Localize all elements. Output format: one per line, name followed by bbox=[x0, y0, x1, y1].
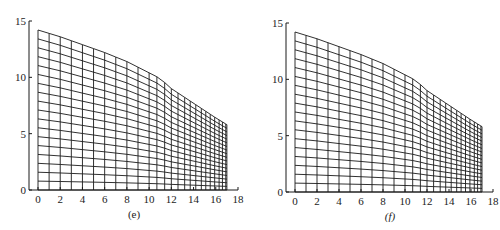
x-tick-label: 10 bbox=[400, 195, 412, 207]
y-tick-label: 5 bbox=[278, 130, 284, 142]
mesh-row-line bbox=[295, 50, 482, 134]
y-tick-label: 10 bbox=[272, 73, 284, 85]
x-tick-label: 8 bbox=[380, 195, 386, 207]
x-tick-label: 16 bbox=[466, 195, 478, 207]
mesh-top-boundary bbox=[295, 32, 482, 127]
mesh-row-line bbox=[295, 112, 482, 159]
x-tick-label: 18 bbox=[488, 195, 500, 207]
mesh-grid bbox=[295, 32, 482, 192]
mesh-row-line bbox=[295, 59, 482, 138]
mesh-row-line bbox=[295, 76, 482, 144]
x-tick-label: 0 bbox=[292, 195, 298, 207]
y-tick-label: 15 bbox=[272, 17, 284, 29]
x-tick-label: 4 bbox=[336, 195, 342, 207]
x-tick-label: 6 bbox=[358, 195, 364, 207]
mesh-row-line bbox=[295, 148, 482, 174]
panel-f: 051015024681012141618(f) bbox=[0, 0, 250, 230]
mesh-row-line bbox=[295, 183, 482, 188]
x-tick-label: 12 bbox=[422, 195, 433, 207]
y-tick-label: 0 bbox=[278, 186, 284, 198]
mesh-row-line bbox=[295, 130, 482, 167]
x-tick-label: 14 bbox=[444, 195, 456, 207]
panel-caption: (f) bbox=[385, 210, 396, 223]
x-tick-label: 2 bbox=[314, 195, 320, 207]
mesh-row-line bbox=[295, 68, 482, 142]
mesh-plot-f: 051015024681012141618(f) bbox=[0, 0, 500, 230]
